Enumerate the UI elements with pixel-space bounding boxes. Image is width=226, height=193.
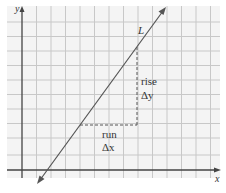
- line-label: L: [138, 25, 144, 36]
- rise-symbol: Δy: [141, 90, 154, 101]
- run-symbol: Δx: [102, 142, 115, 153]
- rise-label: rise: [141, 76, 157, 87]
- run-label: run: [102, 129, 117, 140]
- x-axis-label: x: [215, 173, 219, 184]
- y-axis-label: y: [15, 3, 19, 14]
- slope-diagram: [0, 0, 226, 193]
